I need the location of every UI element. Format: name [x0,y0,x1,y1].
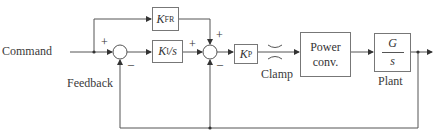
plant-block: G s [374,33,411,72]
kp-symbol: K [240,47,248,62]
ki-symbol: K [158,44,166,59]
feedback-label: Feedback [67,76,113,91]
plant-numerator: G [388,37,397,50]
ki-suffix: /s [169,44,177,59]
plant-label: Plant [378,74,403,89]
clamp-label: Clamp [261,67,293,82]
kfr-block: KFR [152,7,179,31]
kfr-subscript: FR [165,15,175,24]
plant-denominator: s [390,55,395,68]
sum2-plus-top-sign: + [216,29,223,41]
power-conv-line2: conv. [313,55,339,70]
command-label: Command [2,44,52,59]
power-conv-line1: Power [310,40,341,55]
kp-subscript: P [248,50,252,59]
sum1-plus-sign: + [101,36,108,48]
power-conv-block: Power conv. [300,32,351,77]
plant-transfer-function: G s [382,37,404,68]
fraction-bar [382,52,404,53]
ki-block: KI /s [152,40,183,63]
sum2-plus-left-sign: + [189,38,196,50]
kfr-symbol: K [157,12,165,27]
kp-block: KP [234,44,258,64]
sum2-minus-sign: – [217,58,223,70]
sum1-minus-sign: – [128,58,134,70]
